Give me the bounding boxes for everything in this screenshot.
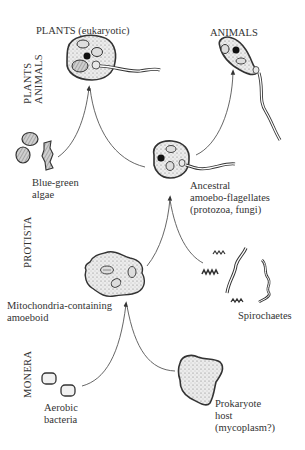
evolution-diagram: PLANTS ANIMALS PROTISTA MONERA PLANTS (e… xyxy=(0,0,305,450)
blue-green-algae-label: Blue-green algae xyxy=(32,177,79,201)
animal-cell xyxy=(219,37,280,140)
arrow-ancestral-to-plants xyxy=(90,88,145,167)
spirochaetes-group xyxy=(202,248,269,302)
mito-amoeboid-label: Mitochondria-containing amoeboid xyxy=(7,300,112,324)
plant-cell xyxy=(67,35,160,80)
arrow-host-to-mito xyxy=(127,306,175,371)
spirochaetes-label: Spirochaetes xyxy=(238,310,292,322)
connector-lines xyxy=(58,72,233,386)
diagram-drawing xyxy=(0,0,305,450)
mito-amoeboid-cell xyxy=(85,252,144,297)
ancestral-label: Ancestral amoebo-flagellates (protozoa, … xyxy=(190,180,270,216)
plants-label: PLANTS (eukaryotic) xyxy=(36,25,130,37)
blue-green-algae xyxy=(16,133,53,171)
aerobic-bacteria-label: Aerobic bacteria xyxy=(44,402,78,426)
arrow-ancestral-to-animals xyxy=(196,72,233,155)
kingdom-animals: ANIMALS xyxy=(33,54,44,104)
animals-label: ANIMALS xyxy=(210,27,258,39)
kingdom-label-monera: MONERA xyxy=(22,351,33,398)
arrow-algae-to-plants xyxy=(58,88,89,157)
ancestral-cell xyxy=(154,141,235,178)
kingdom-label-plants-animals: PLANTS ANIMALS xyxy=(22,54,44,104)
prokaryote-host-label: Prokaryote host (mycoplasm?) xyxy=(215,398,275,434)
aerobic-bacteria xyxy=(42,373,75,396)
kingdom-label-protista: PROTISTA xyxy=(22,216,33,268)
arrow-mito-to-ancestral xyxy=(147,198,170,266)
kingdom-plants: PLANTS xyxy=(22,54,33,104)
